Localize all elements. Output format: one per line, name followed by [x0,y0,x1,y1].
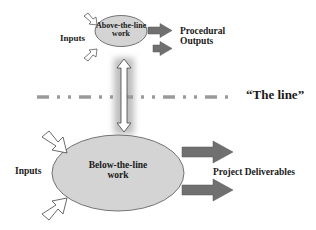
below-node-label-line2: work [88,171,148,181]
diagram-shapes [0,0,316,230]
procedural-output-arrow-top-icon [148,24,172,38]
procedural-output-arrow-bottom-icon [153,42,172,56]
project-deliverables-label: Project Deliverables [213,168,295,178]
procedural-outputs-line2: Outputs [180,37,225,47]
above-input-arrow-bottom-icon [84,49,97,61]
below-input-arrow-top-icon [42,131,67,153]
below-node-label: Below-the-line work [88,161,148,181]
above-node-label-line2: work [96,30,146,38]
below-inputs-label: Inputs [15,167,41,177]
below-input-arrow-bottom-icon [42,198,67,220]
the-line-label: “The line” [246,88,304,102]
above-inputs-label: Inputs [60,34,85,43]
deliverable-arrow-bottom-icon [182,179,233,201]
above-node-label: Above-the-line work [96,22,146,39]
deliverable-arrow-top-icon [182,141,233,163]
diagram-canvas: Inputs Above-the-line work Procedural Ou… [0,0,316,230]
procedural-outputs-label: Procedural Outputs [180,27,225,47]
